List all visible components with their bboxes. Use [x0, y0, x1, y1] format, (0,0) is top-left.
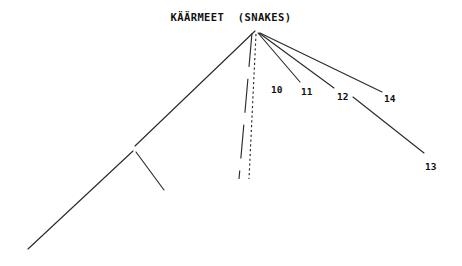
taxon-label-13: 13 [425, 161, 436, 172]
branch-11 [258, 33, 300, 82]
left-fork-left-arm [28, 151, 133, 249]
branch-dashed-unlabeled [239, 33, 252, 179]
taxon-label-12: 12 [337, 91, 348, 102]
branch-12 [259, 33, 334, 88]
cladogram-canvas [0, 0, 462, 266]
left-fork-right-arm [136, 152, 164, 190]
taxon-label-10: 10 [271, 84, 282, 95]
branch-13 [353, 97, 424, 153]
left-main-branch [135, 31, 255, 146]
taxon-label-11: 11 [301, 86, 312, 97]
taxon-label-14: 14 [384, 93, 395, 104]
diagram-title: KÄÄRMEET (SNAKES) [0, 11, 462, 23]
cladogram-page: KÄÄRMEET (SNAKES) 10 11 12 13 14 [0, 0, 462, 266]
